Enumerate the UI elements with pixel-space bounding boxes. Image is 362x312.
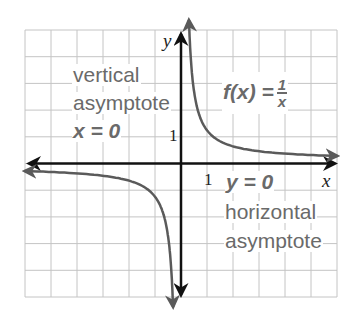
function-fraction: 1x xyxy=(277,77,287,109)
horizontal-asymptote-line1: horizontal xyxy=(224,201,317,223)
x-tick-1: 1 xyxy=(204,170,213,190)
function-numerator: 1 xyxy=(277,77,287,94)
vertical-asymptote-line1: vertical xyxy=(72,64,141,86)
vertical-asymptote-line2: asymptote xyxy=(72,92,171,114)
horizontal-asymptote-equation: y = 0 xyxy=(225,171,274,193)
function-denominator: x xyxy=(277,94,287,109)
function-label: f(x) =1x xyxy=(222,72,288,114)
curve-negative-branch xyxy=(25,171,174,307)
horizontal-asymptote-line2: asymptote xyxy=(224,230,323,252)
vertical-asymptote-equation: x = 0 xyxy=(72,120,121,142)
y-axis-label: y xyxy=(163,30,171,52)
y-tick-1: 1 xyxy=(169,126,178,146)
function-lhs: f(x) = xyxy=(223,80,274,103)
x-axis-label: x xyxy=(322,170,330,192)
graph-canvas xyxy=(0,0,362,312)
